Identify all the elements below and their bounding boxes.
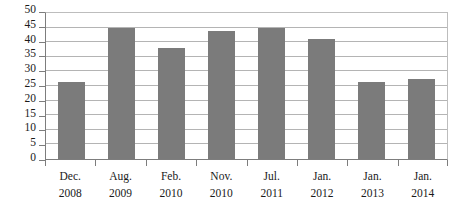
x-axis-label-line: Jan. bbox=[297, 168, 347, 185]
x-axis-tick-mark bbox=[297, 160, 298, 166]
y-axis-tick-label: 45 bbox=[25, 19, 37, 31]
bar bbox=[58, 82, 85, 159]
x-axis-label: Nov.2010 bbox=[196, 168, 246, 212]
x-axis-label-line: Dec. bbox=[45, 168, 95, 185]
y-axis-tick-label: 15 bbox=[25, 108, 37, 120]
bar bbox=[258, 28, 285, 159]
bar bbox=[358, 82, 385, 159]
plot-area bbox=[45, 12, 448, 160]
bar-slot bbox=[146, 13, 196, 159]
x-axis-label-line: 2010 bbox=[196, 185, 246, 202]
x-axis-label-line: Jan. bbox=[347, 168, 397, 185]
x-axis-tick-mark bbox=[247, 160, 248, 166]
bar-slot bbox=[247, 13, 297, 159]
y-axis-tick-label: 25 bbox=[25, 78, 37, 90]
x-axis-label-line: 2014 bbox=[398, 185, 448, 202]
x-axis-label: Jan.2012 bbox=[297, 168, 347, 212]
bar bbox=[408, 79, 435, 159]
x-axis-tick-mark bbox=[146, 160, 147, 166]
bar bbox=[308, 39, 335, 159]
x-axis-tick-cell bbox=[347, 160, 397, 166]
bar-slot bbox=[347, 13, 397, 159]
x-axis-ticks bbox=[45, 160, 448, 166]
x-axis-label: Jul.2011 bbox=[247, 168, 297, 212]
bar-slot bbox=[196, 13, 246, 159]
x-axis-label: Feb.2010 bbox=[146, 168, 196, 212]
x-axis-label-line: 2012 bbox=[297, 185, 347, 202]
x-axis-label: Jan.2014 bbox=[398, 168, 448, 212]
bar-slot bbox=[96, 13, 146, 159]
y-axis-tick-label: 50 bbox=[25, 4, 37, 16]
x-axis-tick-cell bbox=[146, 160, 196, 166]
bar-chart: 05101520253035404550 Dec.2008Aug.2009Feb… bbox=[0, 0, 467, 215]
x-axis-tick-cell bbox=[196, 160, 246, 166]
y-axis-tick-label: 40 bbox=[25, 34, 37, 46]
bar bbox=[108, 28, 135, 159]
y-axis-tick-label: 30 bbox=[25, 63, 37, 75]
bar bbox=[208, 31, 235, 159]
x-axis-label: Dec.2008 bbox=[45, 168, 95, 212]
x-axis-label-line: Jul. bbox=[247, 168, 297, 185]
x-axis-label: Jan.2013 bbox=[347, 168, 397, 212]
bar-series bbox=[46, 13, 447, 159]
y-axis-tick-label: 5 bbox=[30, 137, 36, 149]
x-axis-label: Aug.2009 bbox=[95, 168, 145, 212]
y-axis-tick-label: 10 bbox=[25, 122, 37, 134]
bar-slot bbox=[397, 13, 447, 159]
x-axis-tick-mark bbox=[196, 160, 197, 166]
x-axis-tick-mark bbox=[95, 160, 96, 166]
plot-wrapper bbox=[45, 12, 448, 160]
x-axis-tick-mark bbox=[447, 160, 448, 166]
x-axis-label-line: 2009 bbox=[95, 185, 145, 202]
y-axis-tick-label: 35 bbox=[25, 48, 37, 60]
x-axis-tick-mark bbox=[398, 160, 399, 166]
x-axis-tick-cell bbox=[95, 160, 145, 166]
x-axis-label-line: Nov. bbox=[196, 168, 246, 185]
x-axis-label-line: Feb. bbox=[146, 168, 196, 185]
x-axis-label-line: 2011 bbox=[247, 185, 297, 202]
x-axis-tick-cell bbox=[398, 160, 448, 166]
x-axis-label-line: Jan. bbox=[398, 168, 448, 185]
x-axis-tick-cell bbox=[247, 160, 297, 166]
bar bbox=[158, 48, 185, 159]
y-axis-tick-label: 0 bbox=[30, 152, 36, 164]
bar-slot bbox=[46, 13, 96, 159]
y-axis-tick-label: 20 bbox=[25, 93, 37, 105]
x-axis-label-line: 2010 bbox=[146, 185, 196, 202]
y-axis: 05101520253035404550 bbox=[0, 12, 45, 160]
x-axis-label-line: 2013 bbox=[347, 185, 397, 202]
x-axis-tick-cell bbox=[45, 160, 95, 166]
x-axis-label-line: Aug. bbox=[95, 168, 145, 185]
x-axis-labels: Dec.2008Aug.2009Feb.2010Nov.2010Jul.2011… bbox=[45, 168, 448, 212]
x-axis-tick-cell bbox=[297, 160, 347, 166]
x-axis-label-line: 2008 bbox=[45, 185, 95, 202]
x-axis-tick-mark bbox=[347, 160, 348, 166]
bar-slot bbox=[297, 13, 347, 159]
x-axis-tick-mark bbox=[45, 160, 46, 166]
